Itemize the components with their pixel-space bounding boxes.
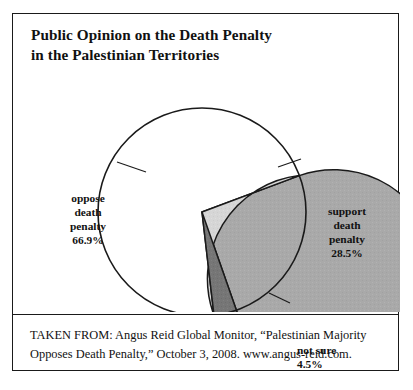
figure-frame: Public Opinion on the Death Penalty in t… bbox=[12, 13, 399, 371]
pie-label-support-line-3: penalty bbox=[305, 233, 389, 247]
leader-line-oppose bbox=[117, 162, 146, 172]
pie-label-support-line-2: death bbox=[305, 219, 389, 233]
title-line-1: Public Opinion on the Death Penalty bbox=[31, 25, 361, 45]
caption-divider bbox=[13, 314, 398, 315]
pie-label-support-value: 28.5% bbox=[305, 247, 389, 261]
leader-line-support bbox=[278, 159, 301, 167]
pie-label-oppose-line-2: death bbox=[45, 206, 131, 220]
title-line-2: in the Palestinian Territories bbox=[31, 45, 361, 65]
pie-label-oppose: oppose death penalty 66.9% bbox=[45, 192, 131, 248]
source-caption: TAKEN FROM: Angus Reid Global Monitor, “… bbox=[30, 326, 382, 363]
pie-label-oppose-line-1: oppose bbox=[45, 192, 131, 206]
pie-label-support: support death penalty 28.5% bbox=[305, 205, 389, 261]
pie-chart: oppose death penalty 66.9% support death… bbox=[13, 72, 400, 312]
source-caption-line-2: Opposes Death Penalty,” October 3, 2008.… bbox=[30, 345, 382, 364]
page-title: Public Opinion on the Death Penalty in t… bbox=[31, 25, 361, 65]
pie-label-support-line-1: support bbox=[305, 205, 389, 219]
source-caption-line-1: TAKEN FROM: Angus Reid Global Monitor, “… bbox=[30, 326, 382, 345]
pie-label-oppose-value: 66.9% bbox=[45, 234, 131, 248]
pie-label-oppose-line-3: penalty bbox=[45, 220, 131, 234]
